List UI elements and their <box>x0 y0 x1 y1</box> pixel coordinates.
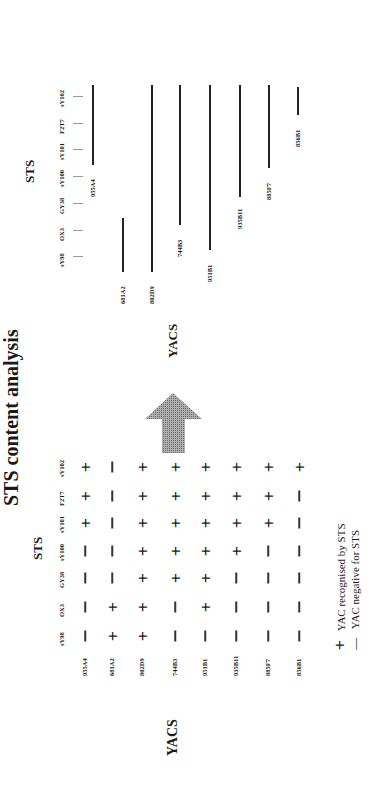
plus-cell: + <box>197 491 214 501</box>
plus-cell: + <box>77 491 94 501</box>
plus-cell: + <box>228 491 245 501</box>
minus-cell <box>84 573 86 584</box>
sts-tick <box>73 256 83 257</box>
minus-cell <box>174 602 176 613</box>
minus-cell <box>204 631 206 642</box>
minus-cell <box>298 546 300 557</box>
column-header: sY101 <box>58 516 65 533</box>
plus-cell: + <box>167 546 184 556</box>
figure-stage: STS content analysis STS YACS sY98OX3GY3… <box>0 0 385 788</box>
minus-cell <box>267 602 269 613</box>
contig-label: 681A2 <box>119 286 126 304</box>
row-label: 856B1 <box>295 659 302 676</box>
minus-cell <box>84 631 86 642</box>
plus-cell: + <box>134 573 151 583</box>
minus-cell <box>111 462 113 473</box>
minus-cell <box>84 602 86 613</box>
column-header: OX3 <box>58 604 65 617</box>
contig-line <box>268 85 270 168</box>
map-sts-label: sY98 <box>58 253 65 267</box>
table-sts-heading: STS <box>30 537 46 560</box>
row-label: 955A4 <box>81 658 88 676</box>
plus-cell: + <box>291 462 308 472</box>
sts-tick <box>73 203 83 204</box>
minus-cell <box>174 631 176 642</box>
row-label: 935B11 <box>232 656 239 676</box>
row-label: 744B3 <box>171 659 178 676</box>
column-header: GY38 <box>58 572 65 588</box>
plus-cell: + <box>134 462 151 472</box>
plus-cell: + <box>197 602 214 612</box>
plus-cell: + <box>167 518 184 528</box>
map-sts-heading: STS <box>22 160 38 183</box>
plus-cell: + <box>197 546 214 556</box>
sts-tick <box>73 123 83 124</box>
sts-tick <box>73 230 83 231</box>
contig-line <box>297 87 299 115</box>
map-sts-label: sY102 <box>58 90 65 107</box>
plus-cell: + <box>197 573 214 583</box>
minus-cell <box>111 573 113 584</box>
minus-cell <box>298 602 300 613</box>
legend-minus-label: YAC negative for STS <box>349 530 361 629</box>
plus-cell: + <box>77 518 94 528</box>
plus-cell: + <box>260 518 277 528</box>
map-sts-label: GY38 <box>58 198 65 214</box>
column-header: sY98 <box>58 632 65 646</box>
map-sts-label: sY101 <box>58 143 65 160</box>
contig-line <box>151 85 153 272</box>
plus-cell: + <box>134 546 151 556</box>
legend: + YAC recognised by STS — YAC negative f… <box>330 523 366 650</box>
minus-cell <box>267 631 269 642</box>
minus-cell <box>235 602 237 613</box>
sts-tick <box>73 176 83 177</box>
plus-cell: + <box>104 602 121 612</box>
minus-cell <box>111 518 113 529</box>
contig-line <box>179 85 181 225</box>
plus-cell: + <box>134 631 151 641</box>
plus-cell: + <box>228 546 245 556</box>
plus-cell: + <box>260 462 277 472</box>
contig-label: 951B1 <box>206 265 213 282</box>
sts-tick <box>73 96 83 97</box>
minus-cell <box>298 631 300 642</box>
contig-label: 885F7 <box>265 183 272 200</box>
contig-label: 744B3 <box>176 240 183 257</box>
column-header: sY102 <box>58 460 65 477</box>
minus-cell <box>267 573 269 584</box>
contig-line <box>239 85 241 197</box>
map-sts-label: F2T7 <box>58 119 65 134</box>
arrow-yacs-label: YACS <box>165 324 181 358</box>
plus-cell: + <box>167 462 184 472</box>
legend-plus-label: YAC recognised by STS <box>335 523 347 631</box>
minus-cell <box>84 546 86 557</box>
contig-label: 955A4 <box>89 179 96 197</box>
row-label: 885F7 <box>264 659 271 676</box>
plus-cell: + <box>167 573 184 583</box>
minus-cell <box>235 573 237 584</box>
plus-symbol: + <box>330 640 349 650</box>
right-arrow-icon <box>145 393 205 453</box>
map-sts-label: sY100 <box>58 170 65 187</box>
sts-tick <box>73 149 83 150</box>
contig-line <box>122 218 124 272</box>
minus-cell <box>298 518 300 529</box>
table-yacs-heading: YACS <box>165 719 181 756</box>
plus-cell: + <box>134 491 151 501</box>
plus-cell: + <box>167 491 184 501</box>
minus-cell <box>235 631 237 642</box>
minus-cell <box>267 546 269 557</box>
contig-line <box>92 85 94 165</box>
plus-cell: + <box>104 631 121 641</box>
plus-cell: + <box>197 462 214 472</box>
legend-plus: + YAC recognised by STS <box>330 523 348 650</box>
plus-cell: + <box>134 518 151 528</box>
contig-label: 802D9 <box>148 286 155 304</box>
row-label: 951B1 <box>201 659 208 676</box>
contig-line <box>209 85 211 250</box>
contig-label: 856B1 <box>294 130 301 147</box>
plus-cell: + <box>228 462 245 472</box>
column-header: F2T7 <box>58 491 65 506</box>
plus-cell: + <box>197 518 214 528</box>
minus-cell <box>298 491 300 502</box>
